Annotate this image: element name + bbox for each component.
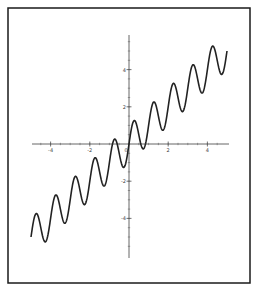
x-tick-label: 4 xyxy=(206,147,209,153)
x-tick-label: 2 xyxy=(167,147,170,153)
y-tick-label: -2 xyxy=(121,178,126,184)
x-tick-label: -2 xyxy=(87,147,92,153)
y-tick-label: 2 xyxy=(123,104,126,110)
x-tick-label: -4 xyxy=(48,147,53,153)
y-tick-label: -4 xyxy=(121,215,126,221)
function-plot: -4-2240-4-224 xyxy=(0,0,257,295)
y-tick-label: 4 xyxy=(123,67,126,73)
axes xyxy=(32,35,229,258)
